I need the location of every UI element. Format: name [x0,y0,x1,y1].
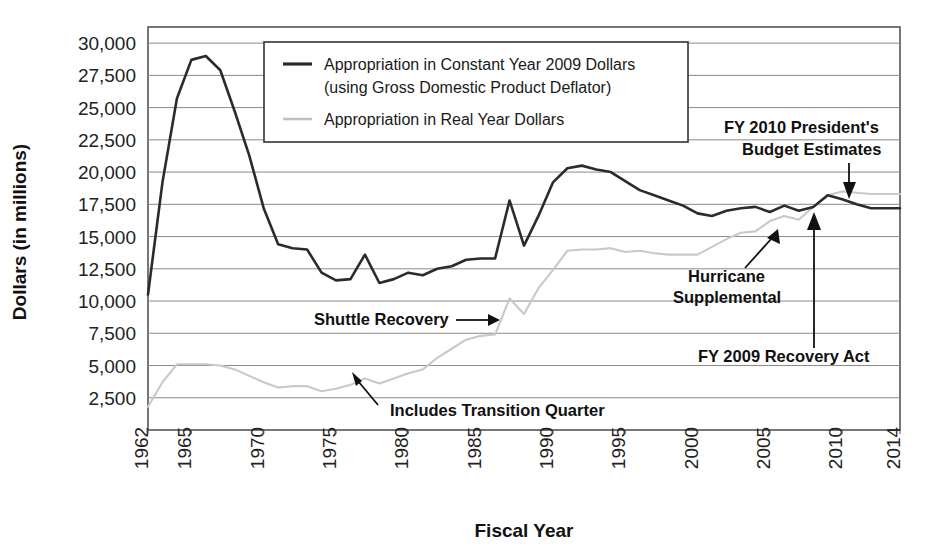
x-tick-label-1980: 1980 [391,427,412,469]
x-tick-label-1965: 1965 [174,427,195,469]
y-tick-label-10000: 10,000 [78,291,136,312]
x-tick-label-2014: 2014 [883,426,904,469]
y-tick-label-27500: 27,500 [78,65,136,86]
x-tick-label-2000: 2000 [681,427,702,469]
x-axis-title: Fiscal Year [475,520,575,541]
legend-label-constant-dollars-line2: (using Gross Domestic Product Deflator) [324,79,611,96]
annotation-shuttle-recovery-label: Shuttle Recovery [314,310,450,328]
y-tick-label-20000: 20,000 [78,162,136,183]
annotation-hurricane-supplemental-line2: Supplemental [673,288,781,306]
x-tick-label-1990: 1990 [536,427,557,469]
nasa-appropriation-line-chart: 2,5005,0007,50010,00012,50015,00017,5002… [0,0,937,551]
annotation-fy-2010-president-budget-line1: FY 2010 President's [724,118,879,136]
x-tick-label-1970: 1970 [247,427,268,469]
legend-label-constant-dollars-line1: Appropriation in Constant Year 2009 Doll… [324,56,635,73]
annotation-hurricane-supplemental-line1: Hurricane [688,267,765,285]
y-axis-title: Dollars (in millions) [9,144,30,320]
x-tick-label-1975: 1975 [319,427,340,469]
x-tick-label-1995: 1995 [608,427,629,469]
legend-label-real-dollars: Appropriation in Real Year Dollars [324,111,564,128]
x-tick-label-1985: 1985 [464,427,485,469]
y-tick-label-17500: 17,500 [78,194,136,215]
y-tick-label-12500: 12,500 [78,259,136,280]
chart-container: 2,5005,0007,50010,00012,50015,00017,5002… [0,0,937,551]
y-tick-label-7500: 7,500 [88,323,136,344]
y-tick-label-25000: 25,000 [78,98,136,119]
y-tick-label-22500: 22,500 [78,130,136,151]
y-tick-label-2500: 2,500 [88,388,136,409]
y-tick-label-15000: 15,000 [78,227,136,248]
x-tick-label-2010: 2010 [825,427,846,469]
chart-legend: Appropriation in Constant Year 2009 Doll… [264,42,688,142]
annotation-includes-transition-quarter-label: Includes Transition Quarter [390,401,605,419]
x-tick-label-2005: 2005 [753,427,774,469]
annotation-fy-2010-president-budget-line2: Budget Estimates [742,140,881,158]
annotation-fy-2009-recovery-act-label: FY 2009 Recovery Act [698,347,870,365]
x-tick-label-1962: 1962 [131,427,152,469]
y-tick-label-30000: 30,000 [78,33,136,54]
y-tick-label-5000: 5,000 [88,356,136,377]
